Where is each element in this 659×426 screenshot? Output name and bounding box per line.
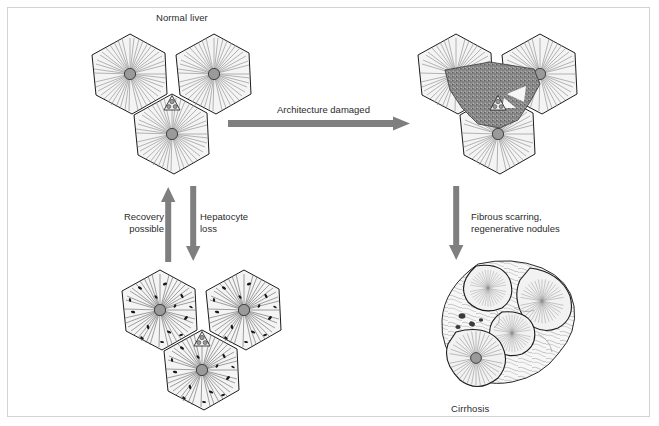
arrow-label-fibrous-scarring: Fibrous scarring, regenerative nodules: [471, 211, 560, 234]
arrow-label-hepatocyte-loss: Hepatocyte loss: [200, 211, 248, 234]
panel-caption-normal-liver: Normal liver: [156, 12, 208, 23]
hepatocyte-line1: Hepatocyte: [200, 211, 248, 222]
recovery-line2: possible: [129, 223, 164, 234]
lobule: [92, 34, 167, 114]
panel-damaged-liver: [412, 28, 602, 173]
panel-cirrhotic-liver: [434, 258, 614, 406]
panel-hepatocyte-loss-liver: [116, 262, 306, 412]
panel-normal-liver: [86, 28, 276, 173]
arrow-architecture-damaged: [228, 116, 414, 132]
arrow-recovery-possible: [160, 186, 178, 262]
panel-caption-cirrhosis: Cirrhosis: [451, 403, 489, 414]
arrow-label-recovery-possible: Recovery possible: [122, 211, 164, 234]
arrow-fibrous-scarring: [448, 186, 466, 262]
fibrous-line1: Fibrous scarring,: [471, 211, 542, 222]
fibrous-line2: regenerative nodules: [471, 223, 560, 234]
arrow-label-architecture-damaged: Architecture damaged: [277, 104, 370, 116]
regenerative-nodule: [447, 330, 506, 387]
lobule: [122, 270, 197, 350]
arrow-hepatocyte-loss: [185, 186, 203, 262]
liver-cirrhosis-diagram: Normal liver: [0, 0, 659, 426]
regenerative-nodule: [464, 265, 512, 311]
recovery-line1: Recovery: [124, 211, 164, 222]
